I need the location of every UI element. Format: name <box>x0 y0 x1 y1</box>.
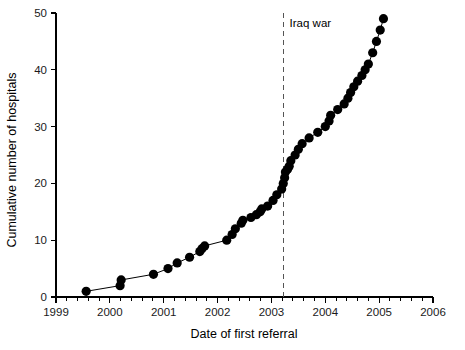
y-axis-tick-label: 0 <box>41 291 47 303</box>
data-point <box>313 128 322 137</box>
series-line <box>86 19 383 292</box>
x-axis-title-group: Date of first referral <box>191 327 298 341</box>
data-point <box>200 241 209 250</box>
data-point <box>364 60 373 69</box>
x-axis-tick-label: 2002 <box>205 306 231 318</box>
x-axis-tick-label: 2006 <box>420 306 446 318</box>
x-axis: 19992000200120022003200420052006 <box>43 297 446 318</box>
x-axis-title: Date of first referral <box>191 327 298 341</box>
data-point <box>117 275 126 284</box>
y-axis-tick-label: 40 <box>34 64 47 76</box>
iraq-war-label: Iraq war <box>290 17 332 29</box>
data-point <box>372 37 381 46</box>
y-axis-tick-label: 50 <box>34 7 47 19</box>
y-axis: 01020304050 <box>34 7 56 303</box>
data-point <box>368 48 377 57</box>
data-series <box>82 14 388 296</box>
data-point <box>163 264 172 273</box>
y-axis-tick-label: 10 <box>34 234 47 246</box>
x-axis-tick-label: 2005 <box>366 306 392 318</box>
x-axis-tick-label: 2000 <box>97 306 123 318</box>
x-axis-tick-label: 2003 <box>259 306 285 318</box>
data-point <box>305 133 314 142</box>
y-axis-tick-label: 30 <box>34 121 47 133</box>
y-axis-tick-label: 20 <box>34 177 47 189</box>
data-point <box>82 287 91 296</box>
x-axis-tick-label: 2001 <box>151 306 177 318</box>
x-axis-tick-label: 2004 <box>312 306 338 318</box>
y-axis-title: Cumulative number of hospitals <box>5 72 19 247</box>
data-point <box>149 270 158 279</box>
data-point <box>185 253 194 262</box>
data-point <box>376 25 385 34</box>
chart-figure: Cumulative number of hospitals Date of f… <box>0 0 465 350</box>
cumulative-hospitals-chart: Cumulative number of hospitals Date of f… <box>0 0 465 350</box>
data-point <box>173 258 182 267</box>
data-point <box>238 216 247 225</box>
x-axis-tick-label: 1999 <box>43 306 69 318</box>
data-point <box>379 14 388 23</box>
y-axis-title-group: Cumulative number of hospitals <box>5 72 19 247</box>
